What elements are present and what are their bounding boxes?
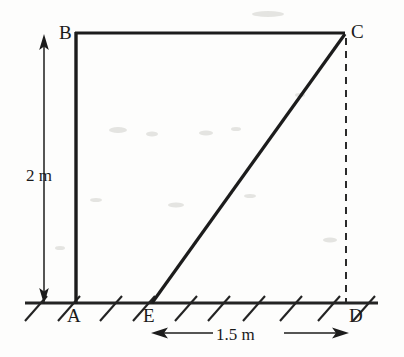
hatch-mark	[280, 296, 302, 321]
hatch-mark	[175, 296, 197, 321]
geometry-figure: B C A E D 2 m 1.5 m	[0, 0, 404, 357]
vertex-label-c: C	[351, 21, 364, 42]
hatch-mark	[243, 296, 265, 321]
paper-texture	[55, 11, 337, 250]
hatch-mark	[208, 296, 230, 321]
hatch-mark	[100, 296, 122, 321]
height-dimension-label: 2 m	[26, 166, 52, 185]
segment-ec-incline	[152, 34, 345, 303]
diagram-canvas: B C A E D 2 m 1.5 m	[0, 0, 404, 357]
vertex-label-a: A	[67, 305, 81, 326]
hatch-mark	[318, 296, 340, 321]
vertex-label-b: B	[59, 22, 72, 43]
vertex-label-e: E	[143, 305, 155, 326]
vertex-label-d: D	[349, 305, 363, 326]
width-dimension-label: 1.5 m	[216, 325, 255, 344]
